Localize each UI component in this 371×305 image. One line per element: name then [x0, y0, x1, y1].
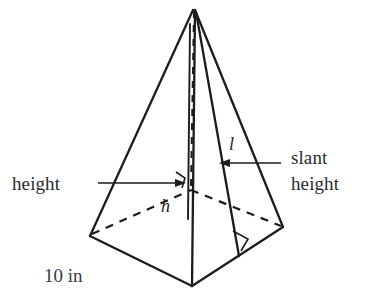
- slant-height-label-line2: height: [291, 173, 340, 194]
- height-variable-label: h: [161, 196, 170, 216]
- height-label: height: [12, 173, 61, 194]
- slant-variable-label: l: [229, 134, 234, 154]
- slant-height-label-line1: slant: [291, 147, 328, 168]
- base-edge-length-label: 10 in: [44, 265, 83, 286]
- pyramid-diagram-canvas: height slant height 10 in h l: [0, 0, 371, 305]
- pyramid-figure: height slant height 10 in h l: [0, 0, 371, 305]
